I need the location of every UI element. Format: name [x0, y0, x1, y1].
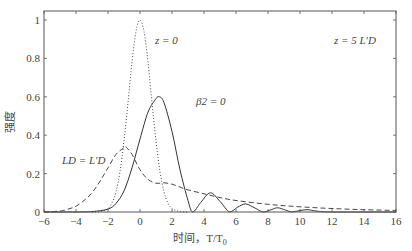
y-tick-label: 0.8	[26, 52, 40, 64]
y-tick-label: 1	[35, 14, 41, 26]
x-tick-label: 12	[327, 215, 338, 227]
y-tick-label: 0.2	[26, 168, 40, 180]
series-line-dotted	[92, 20, 188, 212]
y-tick-label: 0	[35, 206, 41, 218]
annotation-label: LD = L'D	[61, 154, 105, 166]
x-tick-label: 14	[359, 215, 371, 227]
line-chart: −6−4−20246810121416 00.20.40.60.81 z = 0…	[0, 0, 412, 251]
y-tick-label: 0.4	[26, 129, 40, 141]
x-tick-label: 16	[391, 215, 403, 227]
y-tick-label: 0.6	[26, 91, 40, 103]
x-tick-label: 0	[137, 215, 143, 227]
x-axis-label: 时间，T/T0	[173, 232, 227, 247]
annotation-label: z = 5 L'D	[333, 34, 376, 46]
x-axis-label-main: 时间，T/T	[173, 232, 223, 244]
y-axis-label: 强度	[3, 111, 16, 133]
annotations: z = 0z = 5 L'Dβ2 = 0LD = L'D	[61, 34, 376, 166]
x-tick-label: −2	[102, 215, 114, 227]
x-tick-label: 2	[169, 215, 175, 227]
x-tick-label: 4	[201, 215, 207, 227]
annotation-label: β2 = 0	[195, 95, 226, 107]
x-axis-label-sub: 0	[223, 238, 227, 247]
x-tick-label: −4	[70, 215, 82, 227]
x-tick-label: 8	[265, 215, 271, 227]
x-tick-label: 10	[295, 215, 307, 227]
plot-area	[44, 20, 396, 212]
annotation-label: z = 0	[154, 34, 178, 46]
x-tick-label: 6	[233, 215, 239, 227]
